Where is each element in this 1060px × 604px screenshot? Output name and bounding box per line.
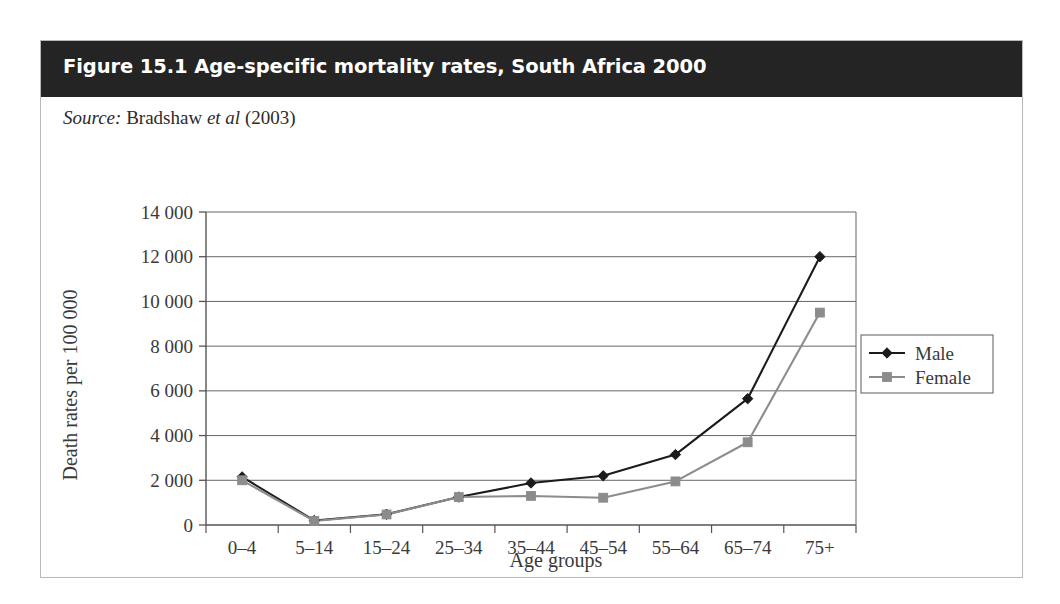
chart-plot-region: Death rates per 100 000 Age groups 02 00…	[41, 141, 1024, 579]
x-tick-label: 65–74	[724, 537, 772, 558]
source-year: (2003)	[245, 107, 296, 128]
y-axis-title: Death rates per 100 000	[59, 289, 82, 480]
figure-source-line: Source: Bradshaw et al (2003)	[63, 107, 296, 129]
y-tick-marks	[199, 212, 206, 525]
data-point-marker	[598, 471, 608, 481]
data-point-marker	[815, 252, 825, 262]
gridlines-group	[206, 212, 856, 480]
source-etal: et al	[207, 107, 240, 128]
y-tick-label: 0	[184, 515, 194, 536]
data-point-marker	[599, 493, 608, 502]
data-point-marker	[815, 308, 824, 317]
legend-label-male: Male	[915, 343, 954, 364]
y-tick-label: 6 000	[150, 380, 193, 401]
data-point-marker	[238, 476, 247, 485]
x-tick-marks	[206, 525, 856, 533]
y-tick-label: 12 000	[141, 246, 193, 267]
page-root: Figure 15.1 Age-specific mortality rates…	[0, 0, 1060, 604]
chart-legend: MaleFemale	[861, 335, 993, 393]
mortality-line-chart: Death rates per 100 000 Age groups 02 00…	[41, 141, 1024, 579]
y-tick-label: 10 000	[141, 291, 193, 312]
y-tick-label: 2 000	[150, 470, 193, 491]
legend-marker-female	[883, 373, 892, 382]
x-tick-label: 35–44	[507, 537, 555, 558]
figure-title: Figure 15.1 Age-specific mortality rates…	[63, 55, 707, 78]
data-point-marker	[310, 517, 319, 526]
legend-label-female: Female	[915, 367, 971, 388]
y-tick-label: 4 000	[150, 425, 193, 446]
data-point-marker	[382, 510, 391, 519]
series-line-female	[242, 313, 820, 521]
x-tick-label: 55–64	[652, 537, 700, 558]
data-point-marker	[527, 492, 536, 501]
data-point-marker	[671, 477, 680, 486]
x-tick-label: 45–54	[579, 537, 627, 558]
figure-card: Figure 15.1 Age-specific mortality rates…	[40, 40, 1023, 578]
x-tick-label: 5–14	[295, 537, 334, 558]
y-tick-label: 14 000	[141, 202, 193, 223]
x-tick-label: 25–34	[435, 537, 483, 558]
x-tick-label: 75+	[805, 537, 835, 558]
source-author: Bradshaw	[126, 107, 202, 128]
source-label: Source:	[63, 107, 121, 128]
series-markers-group	[237, 252, 825, 526]
data-point-marker	[454, 493, 463, 502]
y-tick-labels: 02 0004 0006 0008 00010 00012 00014 000	[141, 202, 193, 536]
figure-header-bar: Figure 15.1 Age-specific mortality rates…	[41, 41, 1022, 97]
x-tick-label: 15–24	[363, 537, 411, 558]
x-tick-label: 0–4	[228, 537, 257, 558]
data-point-marker	[743, 438, 752, 447]
data-point-marker	[526, 478, 536, 488]
x-tick-labels: 0–45–1415–2425–3435–4445–5455–6465–7475+	[228, 537, 835, 558]
y-tick-label: 8 000	[150, 336, 193, 357]
